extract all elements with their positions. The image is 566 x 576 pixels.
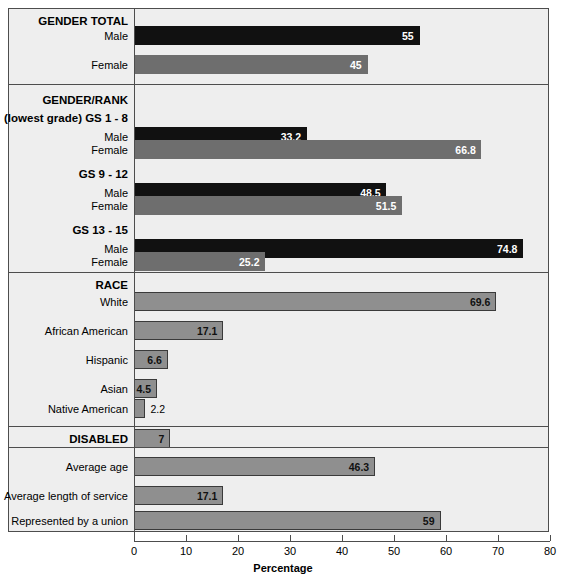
row-label-disabled: DISABLED: [0, 433, 128, 445]
bar-value-average-length-of-service: 17.1: [197, 490, 217, 501]
row-label-gs-1-8-male: Male: [0, 131, 128, 143]
x-axis-tick-label-70: 70: [492, 545, 504, 557]
bar-value-disabled: 7: [158, 433, 164, 444]
bar-average-age: [134, 457, 375, 476]
bar-value-race-native-american: 2.2: [150, 403, 165, 414]
x-axis-tick-70: [498, 535, 499, 541]
x-axis-tick-0: [134, 535, 135, 541]
bar-value-race-asian: 4.5: [136, 383, 151, 394]
x-axis-tick-label-10: 10: [180, 545, 192, 557]
bar-value-gs-9-12-female: 51.5: [376, 200, 396, 211]
divider-2: [8, 272, 549, 273]
x-axis-tick-label-40: 40: [336, 545, 348, 557]
section-heading-race: RACE: [0, 279, 128, 291]
bar-value-represented-by-a-union: 59: [423, 515, 435, 526]
x-axis-title: Percentage: [0, 562, 566, 574]
x-axis-tick-40: [342, 535, 343, 541]
bar-gs-9-12-female: [134, 196, 402, 215]
bar-value-gs-13-15-female: 25.2: [239, 256, 259, 267]
bar-value-gs-1-8-female: 66.8: [455, 144, 475, 155]
x-axis-tick-80: [550, 535, 551, 541]
row-label-race-african-american: African American: [0, 325, 128, 337]
row-label-average-length-of-service: Average length of service: [0, 490, 128, 502]
bar-race-white: [134, 292, 496, 311]
x-axis-tick-label-0: 0: [131, 545, 137, 557]
subheading-gs-13-15: GS 13 - 15: [0, 224, 128, 236]
row-label-gender-total-male: Male: [0, 30, 128, 42]
x-axis-tick-label-30: 30: [284, 545, 296, 557]
axis-zero-line: [134, 8, 135, 538]
section-heading-gender-rank: GENDER/RANK: [0, 94, 128, 106]
row-label-gs-13-15-female: Female: [0, 256, 128, 268]
x-axis-tick-60: [446, 535, 447, 541]
row-label-race-asian: Asian: [0, 383, 128, 395]
section-heading-gender-total: GENDER TOTAL: [0, 15, 128, 27]
bar-value-race-hispanic: 6.6: [147, 354, 162, 365]
bar-value-race-african-american: 17.1: [197, 325, 217, 336]
x-axis-tick-label-20: 20: [232, 545, 244, 557]
row-label-race-hispanic: Hispanic: [0, 354, 128, 366]
x-axis-tick-label-50: 50: [388, 545, 400, 557]
bar-represented-by-a-union: [134, 511, 441, 530]
row-label-race-native-american: Native American: [0, 403, 128, 415]
x-axis-tick-50: [394, 535, 395, 541]
row-label-race-white: White: [0, 296, 128, 308]
divider-3: [8, 426, 549, 427]
x-axis-line: [134, 541, 550, 542]
bar-value-gs-13-15-male: 74.8: [497, 243, 517, 254]
row-label-gs-1-8-female: Female: [0, 144, 128, 156]
chart-canvas: GENDER TOTALMale55Female45GENDER/RANK(lo…: [0, 0, 566, 576]
bar-value-average-age: 46.3: [349, 461, 369, 472]
bar-value-gender-total-male: 55: [402, 30, 414, 41]
subheading-gs-9-12: GS 9 - 12: [0, 168, 128, 180]
bar-gender-total-female: [134, 55, 368, 74]
row-label-gs-9-12-male: Male: [0, 187, 128, 199]
x-axis-tick-10: [186, 535, 187, 541]
row-label-average-age: Average age: [0, 461, 128, 473]
subheading-gs-1-8: (lowest grade) GS 1 - 8: [0, 112, 128, 124]
bar-disabled: [134, 429, 170, 448]
row-label-gender-total-female: Female: [0, 59, 128, 71]
bar-gender-total-male: [134, 26, 420, 45]
bar-gs-1-8-female: [134, 140, 481, 159]
x-axis-tick-30: [290, 535, 291, 541]
bar-value-race-white: 69.6: [470, 296, 490, 307]
row-label-gs-9-12-female: Female: [0, 200, 128, 212]
chart-frame: [8, 8, 549, 532]
divider-1: [8, 84, 549, 85]
bar-race-native-american: [134, 399, 145, 418]
x-axis-tick-20: [238, 535, 239, 541]
row-label-gs-13-15-male: Male: [0, 243, 128, 255]
row-label-represented-by-a-union: Represented by a union: [0, 515, 128, 527]
x-axis-tick-label-80: 80: [544, 545, 556, 557]
divider-4: [8, 447, 549, 448]
x-axis-tick-label-60: 60: [440, 545, 452, 557]
bar-value-gender-total-female: 45: [350, 59, 362, 70]
